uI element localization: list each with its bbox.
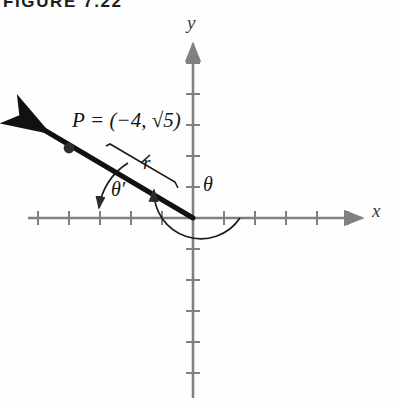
theta-prime-label: θ′	[111, 178, 125, 201]
terminal-ray	[34, 124, 193, 218]
figure-container: FIGURE 7.22	[0, 0, 395, 404]
paren-close: )	[174, 108, 181, 132]
radical-icon: √	[152, 108, 164, 132]
point-p-label: P = (−4, √5)	[72, 108, 181, 133]
y-axis	[186, 44, 200, 398]
paren-open: (	[110, 108, 117, 132]
point-y-radicand: 5	[163, 108, 174, 132]
point-x-value: −4	[117, 108, 142, 132]
equals-sign: =	[90, 108, 104, 132]
coordinate-plane-graphic	[0, 0, 395, 404]
point-p-marker	[64, 143, 75, 154]
x-axis-label: x	[372, 200, 380, 222]
point-p-name: P	[72, 108, 85, 132]
theta-arc	[154, 190, 240, 239]
theta-label: θ	[203, 173, 213, 196]
radius-label: r	[143, 152, 150, 174]
y-axis-label: y	[187, 12, 195, 34]
